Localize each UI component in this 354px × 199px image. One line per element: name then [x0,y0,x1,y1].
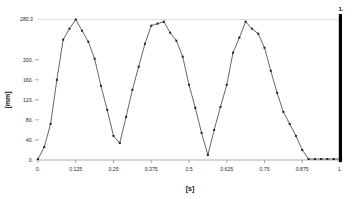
data-point-marker [56,79,58,81]
data-point-marker [282,111,284,113]
data-point-marker [238,37,240,39]
data-point-marker [62,39,64,41]
data-point-marker [213,129,215,131]
data-point-marker [175,40,177,42]
data-point-marker [333,158,335,160]
cursor-vertical-bar[interactable] [339,14,342,162]
x-tick-label: 0.75 [259,166,269,172]
y-tick-label: 160. [23,77,33,83]
data-point-marker [94,58,96,60]
line-chart: 0.40.80.120.160.200.280.3 0.0.1250.250.3… [0,0,354,199]
x-tick-label: 0.375 [145,166,158,172]
data-point-marker [150,25,152,27]
x-tick-label: 0.5 [185,166,192,172]
chart-container: 0.40.80.120.160.200.280.3 0.0.1250.250.3… [0,0,354,199]
data-point-marker [301,149,303,151]
data-point-marker [43,146,45,148]
y-tick-label: 0. [29,157,33,163]
data-point-marker [188,84,190,86]
x-tick-label: 0.625 [220,166,233,172]
x-tick-label: 0.25 [108,166,118,172]
data-point-marker [37,158,39,160]
data-point-marker [251,28,253,30]
x-tick-label: 0.875 [296,166,309,172]
data-point-marker [257,33,259,35]
y-tick-label: 80. [26,117,33,123]
x-tick-label: 1. [338,166,342,172]
data-point-marker [100,85,102,87]
data-point-marker [320,158,322,160]
data-point-marker [194,107,196,109]
data-point-marker [50,123,52,125]
data-point-marker [201,132,203,134]
data-point-marker [314,158,316,160]
data-point-marker [276,92,278,94]
data-point-marker [232,52,234,54]
x-tick-label: 0. [36,166,40,172]
data-point-marker [163,21,165,23]
data-point-marker [308,158,310,160]
data-point-marker [245,21,247,23]
y-tick-label: 120. [23,97,33,103]
data-point-marker [81,30,83,32]
cursor-label: 1. [338,6,343,12]
data-point-marker [131,89,133,91]
x-tick-label: 0.125 [69,166,82,172]
data-point-marker [226,84,228,86]
y-tick-label: 200. [23,57,33,63]
x-axis-title: [s] [186,185,195,193]
data-point-marker [264,47,266,49]
data-point-marker [207,154,209,156]
y-tick-label: 280.3 [20,16,33,22]
data-point-marker [157,23,159,25]
data-point-marker [68,28,70,30]
data-point-marker [219,106,221,108]
data-point-marker [144,43,146,45]
data-point-marker [106,109,108,111]
data-point-marker [289,123,291,125]
data-point-marker [75,19,77,21]
data-point-marker [169,32,171,34]
y-axis-title: [mm] [4,91,12,108]
data-point-marker [326,158,328,160]
data-point-marker [270,70,272,72]
data-point-marker [113,135,115,137]
data-point-marker [138,66,140,68]
data-point-marker [295,135,297,137]
data-point-marker [119,142,121,144]
data-point-marker [182,56,184,58]
data-point-marker [125,116,127,118]
data-point-marker [87,41,89,43]
y-tick-label: 40. [26,137,33,143]
